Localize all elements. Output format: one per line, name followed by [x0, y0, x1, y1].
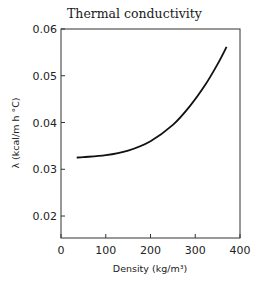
x-tick-label: 100 [95, 244, 116, 257]
y-tick-label: 0.04 [33, 117, 58, 130]
y-tick-label: 0.06 [33, 23, 58, 36]
chart: Thermal conductivity 0100200300400 0.020… [0, 0, 261, 284]
x-tick-label: 200 [140, 244, 161, 257]
chart-title: Thermal conductivity [67, 6, 203, 21]
y-tick-label: 0.05 [33, 70, 58, 83]
x-axis-label: Density (kg/m³) [113, 263, 187, 274]
plot-frame [61, 29, 240, 238]
x-tick-label: 400 [230, 244, 251, 257]
y-tick-label: 0.02 [33, 210, 58, 223]
x-tick-label: 0 [58, 244, 65, 257]
series-line-thermal-conductivity [77, 47, 227, 158]
y-tick-label: 0.03 [33, 163, 58, 176]
y-axis-label: λ (kcal/m h °C) [10, 97, 21, 168]
x-tick-label: 300 [185, 244, 206, 257]
